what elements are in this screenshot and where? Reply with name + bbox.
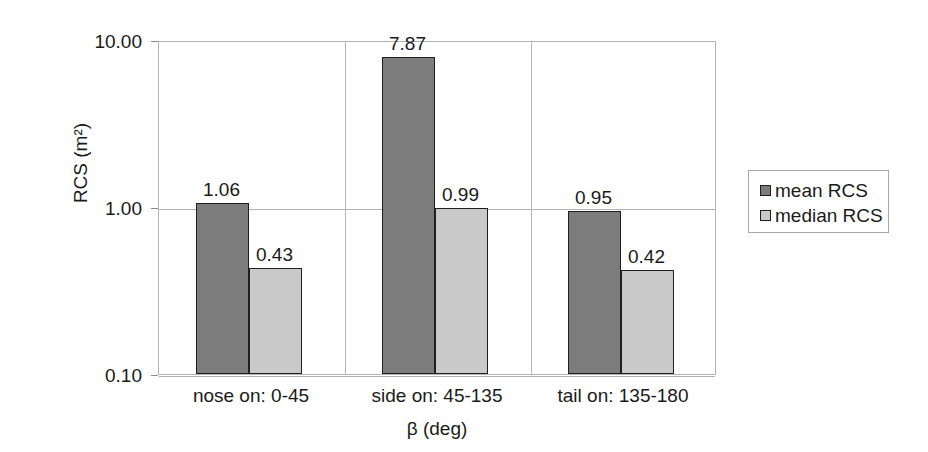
bar-median	[249, 268, 302, 374]
bar-median	[621, 270, 674, 374]
bar-value-label: 0.99	[422, 185, 499, 204]
y-axis-tick-label: 10.00	[0, 32, 142, 51]
y-axis-tick-label: 0.10	[0, 366, 142, 385]
legend: mean RCS median RCS	[748, 170, 889, 233]
y-axis-tick-mark	[151, 41, 158, 42]
legend-swatch-median-icon	[760, 210, 771, 221]
legend-entry-median: median RCS	[760, 204, 888, 227]
bar-value-label: 0.95	[555, 188, 632, 207]
legend-swatch-mean-icon	[760, 185, 771, 196]
bar-value-label: 7.87	[369, 34, 446, 53]
y-axis-title: RCS (m²)	[70, 78, 92, 248]
legend-label-median: median RCS	[775, 206, 883, 225]
gridline	[159, 376, 715, 377]
category-divider	[531, 42, 532, 374]
bar-value-label: 0.43	[236, 245, 313, 264]
legend-label-mean: mean RCS	[775, 181, 868, 200]
legend-entry-mean: mean RCS	[760, 179, 888, 202]
y-axis-tick-mark	[151, 208, 158, 209]
bar-mean	[196, 203, 249, 374]
category-divider	[345, 42, 346, 374]
bar-mean	[382, 57, 435, 374]
rcs-bar-chart: RCS (m²) 10.001.000.10 1.060.437.870.990…	[0, 0, 928, 452]
plot-area	[158, 41, 716, 375]
x-axis-category-label: nose on: 0-45	[158, 385, 344, 407]
y-axis-tick-label: 1.00	[0, 199, 142, 218]
x-axis-category-label: tail on: 135-180	[530, 385, 716, 407]
bar-median	[435, 208, 488, 374]
x-axis-category-label: side on: 45-135	[344, 385, 530, 407]
bar-value-label: 1.06	[183, 180, 260, 199]
y-axis-tick-mark	[151, 375, 158, 376]
bar-mean	[568, 211, 621, 374]
x-axis-title: β (deg)	[158, 418, 716, 440]
bar-value-label: 0.42	[608, 247, 685, 266]
